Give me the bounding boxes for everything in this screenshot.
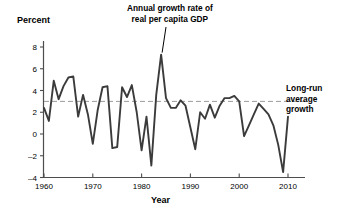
x-tick-label: 1990: [182, 182, 200, 191]
plot-area: 86420–2–4 196019701980199020002010: [28, 27, 305, 191]
annotation-longrun-line-2: average: [286, 94, 322, 105]
x-tick-label: 2010: [279, 182, 297, 191]
annotation-longrun-line-3: growth: [286, 104, 322, 115]
x-axis-tick-labels: 196019701980199020002010: [35, 182, 297, 191]
annotation-growth-rate: Annual growth rate of real per capita GD…: [127, 3, 213, 24]
annotation-growth-line-2: real per capita GDP: [127, 14, 213, 25]
y-tick-label: 8: [33, 43, 38, 52]
y-tick-label: 6: [33, 65, 38, 74]
x-tick-label: 1970: [84, 182, 102, 191]
chart-figure: 86420–2–4 196019701980199020002010 Perce…: [0, 0, 339, 218]
x-axis-title: Year: [151, 195, 170, 205]
x-tick-label: 1980: [133, 182, 151, 191]
y-tick-label: 2: [33, 108, 38, 117]
annotation-longrun-line-1: Long-run: [286, 83, 322, 94]
annotation-long-run-average: Long-run average growth: [286, 83, 322, 115]
callout-leader-line: [162, 27, 166, 53]
x-tick-label: 1960: [35, 182, 53, 191]
gdp-growth-line: [44, 55, 288, 172]
y-tick-label: –2: [28, 152, 37, 161]
y-tick-label: 4: [33, 87, 38, 96]
y-tick-label: 0: [33, 130, 38, 139]
y-axis-tick-labels: 86420–2–4: [28, 43, 37, 183]
x-tick-label: 2000: [230, 182, 248, 191]
annotation-growth-line-1: Annual growth rate of: [127, 3, 213, 14]
y-axis-title: Percent: [17, 15, 50, 25]
